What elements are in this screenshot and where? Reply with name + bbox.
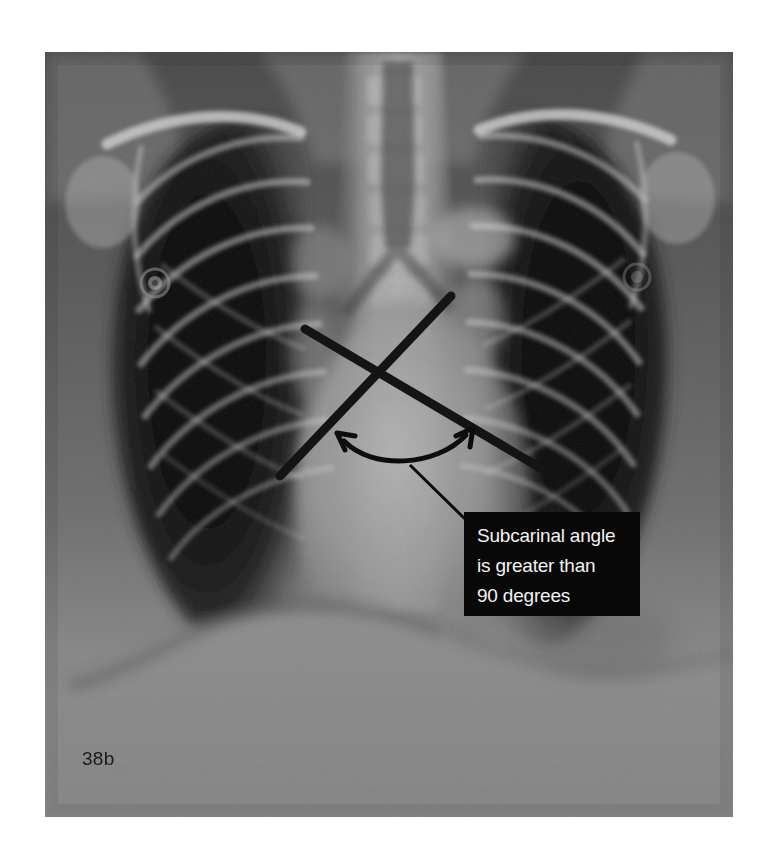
figure-label: 38b [82, 748, 115, 770]
film-grain [45, 52, 733, 817]
callout-line-3: 90 degrees [477, 581, 630, 611]
figure-page: 38b Subcarinal angle is greater than 90 … [0, 0, 768, 859]
callout-text-box: Subcarinal angle is greater than 90 degr… [464, 512, 640, 616]
callout-line-1: Subcarinal angle [477, 521, 630, 551]
callout-line-2: is greater than [477, 551, 630, 581]
chest-radiograph: 38b [45, 52, 733, 817]
radiograph-canvas [45, 52, 733, 817]
